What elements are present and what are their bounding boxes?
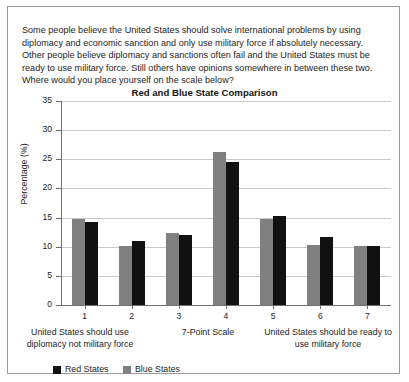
- bar-blue-states: [307, 245, 320, 305]
- bar-blue-states: [213, 152, 226, 305]
- chart-title: Red and Blue State Comparison: [8, 87, 401, 98]
- bar-group: [213, 101, 239, 305]
- x-tick-mark: [179, 305, 180, 309]
- y-tick-label: 5: [24, 270, 52, 280]
- scale-caption-center: 7-Point Scale: [158, 327, 258, 339]
- y-tick-label: 25: [24, 153, 52, 163]
- scale-caption-left: United States should use diplomacy not m…: [14, 327, 146, 350]
- y-tick-label: 0: [24, 299, 52, 309]
- x-tick-label: 3: [164, 311, 194, 321]
- bar-blue-states: [260, 219, 273, 305]
- scale-caption-right: United States should be ready to use mil…: [260, 327, 396, 350]
- y-tick-label: 20: [24, 182, 52, 192]
- x-tick-label: 7: [352, 311, 382, 321]
- bar-blue-states: [119, 246, 132, 305]
- bar-red-states: [85, 222, 98, 305]
- y-tick-label: 35: [24, 95, 52, 105]
- x-tick-mark: [320, 305, 321, 309]
- x-tick-mark: [85, 305, 86, 309]
- x-tick-label: 5: [258, 311, 288, 321]
- x-tick-mark: [367, 305, 368, 309]
- bar-group: [166, 101, 192, 305]
- bar-group: [307, 101, 333, 305]
- legend-swatch-red-icon: [53, 366, 61, 374]
- bar-red-states: [179, 235, 192, 305]
- bar-group: [119, 101, 145, 305]
- y-tick-label: 15: [24, 212, 52, 222]
- bar-red-states: [320, 237, 333, 305]
- x-tick-mark: [132, 305, 133, 309]
- y-tick-label: 10: [24, 241, 52, 251]
- x-tick-label: 1: [70, 311, 100, 321]
- bar-red-states: [132, 241, 145, 305]
- x-tick-mark: [226, 305, 227, 309]
- x-tick-label: 6: [305, 311, 335, 321]
- figure-frame: Some people believe the United States sh…: [7, 6, 400, 374]
- bar-blue-states: [72, 219, 85, 305]
- bar-red-states: [273, 216, 286, 305]
- legend-label-red: Red States: [65, 364, 109, 374]
- legend-swatch-blue-icon: [123, 366, 131, 374]
- x-tick-mark: [273, 305, 274, 309]
- bar-group: [72, 101, 98, 305]
- bar-blue-states: [166, 233, 179, 305]
- legend-label-blue: Blue States: [135, 364, 180, 374]
- bar-red-states: [226, 162, 239, 305]
- bar-group: [354, 101, 380, 305]
- x-tick-label: 2: [117, 311, 147, 321]
- x-tick-label: 4: [211, 311, 241, 321]
- y-tick-label: 30: [24, 124, 52, 134]
- bar-group: [260, 101, 286, 305]
- survey-question-text: Some people believe the United States sh…: [22, 24, 382, 87]
- bar-red-states: [367, 246, 380, 305]
- bar-blue-states: [354, 246, 367, 305]
- plot-area: [61, 101, 391, 305]
